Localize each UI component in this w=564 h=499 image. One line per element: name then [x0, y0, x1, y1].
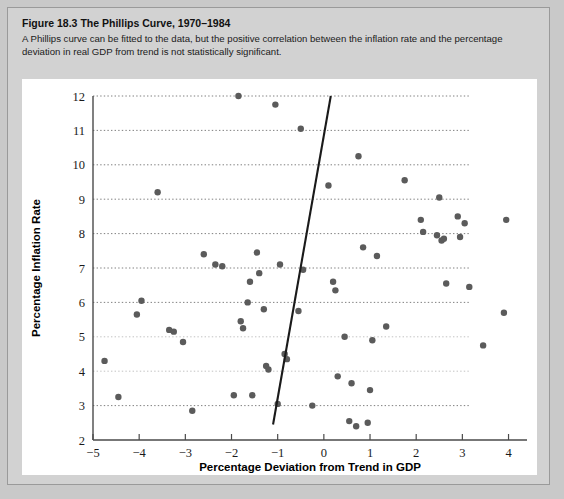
- data-point: [457, 234, 463, 240]
- y-tick-label-3: 3: [79, 399, 85, 413]
- data-point: [212, 261, 218, 267]
- data-point: [138, 297, 144, 303]
- figure-card: Figure 18.3 The Phillips Curve, 1970–198…: [7, 7, 550, 485]
- data-point: [348, 380, 354, 386]
- data-point: [480, 342, 486, 348]
- x-tick-label-1: −4: [133, 446, 147, 460]
- data-point: [231, 392, 237, 398]
- y-tick-label-9: 9: [79, 193, 85, 207]
- data-point: [154, 189, 160, 195]
- x-axis-ticks: −5−4−3−2−101234: [86, 434, 512, 460]
- x-tick-label-6: 1: [367, 446, 373, 460]
- data-point: [256, 270, 262, 276]
- data-point: [466, 284, 472, 290]
- data-point: [441, 236, 447, 242]
- x-tick-label-4: −1: [271, 446, 284, 460]
- data-point: [360, 244, 366, 250]
- data-point: [240, 325, 246, 331]
- y-tick-label-6: 6: [79, 296, 85, 310]
- data-point: [461, 220, 467, 226]
- data-point: [355, 153, 361, 159]
- data-point: [247, 279, 253, 285]
- x-tick-label-5: 0: [321, 446, 327, 460]
- grid-lines: [93, 96, 469, 406]
- data-point: [383, 323, 389, 329]
- data-point: [261, 306, 267, 312]
- data-point: [309, 402, 315, 408]
- data-point: [346, 418, 352, 424]
- x-tick-label-9: 4: [505, 446, 512, 460]
- plot-card: 23456789101112 −5−4−3−2−101234 Percentag…: [22, 79, 537, 475]
- x-tick-label-2: −3: [179, 446, 192, 460]
- y-tick-label-2: 2: [79, 434, 85, 448]
- figure-description: A Phillips curve can be fitted to the da…: [22, 32, 534, 58]
- data-point: [238, 318, 244, 324]
- data-point: [295, 308, 301, 314]
- data-point: [434, 232, 440, 238]
- y-tick-label-4: 4: [79, 365, 86, 379]
- data-point: [369, 337, 375, 343]
- y-tick-label-10: 10: [73, 158, 86, 172]
- data-point: [367, 387, 373, 393]
- data-point: [265, 366, 271, 372]
- x-tick-label-8: 3: [459, 446, 465, 460]
- y-tick-label-12: 12: [73, 90, 86, 104]
- data-point: [134, 311, 140, 317]
- data-point: [244, 299, 250, 305]
- data-point: [180, 339, 186, 345]
- data-point: [235, 93, 241, 99]
- data-point: [249, 392, 255, 398]
- data-point: [277, 261, 283, 267]
- data-point: [272, 101, 278, 107]
- x-tick-label-7: 2: [413, 446, 419, 460]
- x-tick-label-0: −5: [86, 446, 99, 460]
- data-point: [341, 334, 347, 340]
- y-axis-title: Percentage Inflation Rate: [30, 199, 42, 337]
- x-axis-title: Percentage Deviation from Trend in GDP: [199, 461, 421, 473]
- data-point: [418, 217, 424, 223]
- data-point: [436, 194, 442, 200]
- data-point: [325, 182, 331, 188]
- scatter-plot: 23456789101112 −5−4−3−2−101234 Percentag…: [22, 79, 537, 475]
- y-tick-label-7: 7: [79, 262, 85, 276]
- data-point: [101, 358, 107, 364]
- data-point: [335, 373, 341, 379]
- data-point: [455, 213, 461, 219]
- data-point: [298, 125, 304, 131]
- x-tick-label-3: −2: [225, 446, 238, 460]
- data-points: [101, 93, 509, 430]
- y-tick-label-5: 5: [79, 330, 85, 344]
- y-tick-label-8: 8: [79, 227, 85, 241]
- data-point: [171, 328, 177, 334]
- data-point: [189, 408, 195, 414]
- data-point: [501, 310, 507, 316]
- data-point: [330, 279, 336, 285]
- fitted-curve-line: [273, 96, 331, 425]
- figure-name: The Phillips Curve, 1970–1984: [80, 17, 230, 29]
- data-point: [219, 263, 225, 269]
- data-point: [365, 420, 371, 426]
- y-axis-ticks: 23456789101112: [73, 90, 86, 448]
- data-point: [420, 229, 426, 235]
- data-point: [353, 423, 359, 429]
- data-point: [115, 394, 121, 400]
- data-point: [443, 280, 449, 286]
- figure-number: Figure 18.3: [22, 17, 77, 29]
- data-point: [503, 217, 509, 223]
- data-point: [401, 177, 407, 183]
- data-point: [332, 287, 338, 293]
- data-point: [374, 253, 380, 259]
- data-point: [201, 251, 207, 257]
- data-point: [254, 249, 260, 255]
- figure-caption-block: Figure 18.3 The Phillips Curve, 1970–198…: [22, 16, 534, 58]
- figure-title: Figure 18.3 The Phillips Curve, 1970–198…: [22, 16, 534, 30]
- y-tick-label-11: 11: [73, 124, 85, 138]
